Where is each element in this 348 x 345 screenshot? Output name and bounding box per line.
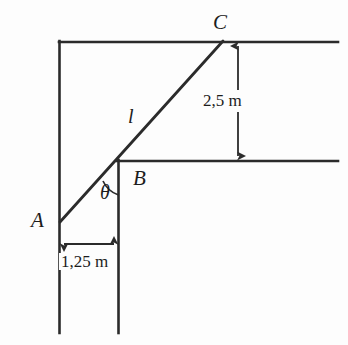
- dimension-label-horizontal: 1,25 m: [59, 253, 110, 270]
- point-label-b: B: [133, 168, 146, 189]
- dimension-label-vertical: 2,5 m: [201, 92, 244, 109]
- segment-label-l: l: [128, 106, 134, 126]
- diagram-canvas: [0, 0, 348, 345]
- point-label-c: C: [213, 12, 227, 33]
- point-label-a: A: [31, 210, 44, 231]
- geometry-diagram: A B C l θ 2,5 m 1,25 m: [0, 0, 348, 345]
- angle-label-theta: θ: [100, 182, 110, 202]
- segment-l-line: [60, 41, 223, 222]
